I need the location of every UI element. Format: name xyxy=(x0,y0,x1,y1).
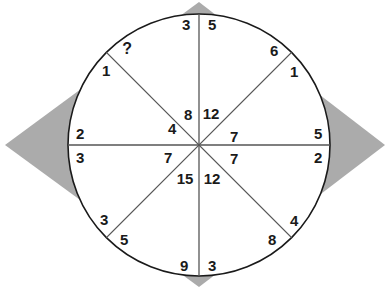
outer-lower-left-below: 5 xyxy=(120,232,128,247)
outer-lower-right-above: 4 xyxy=(290,213,298,228)
inner-sector-n-ne: 12 xyxy=(203,106,219,121)
inner-sector-e-se: 7 xyxy=(230,151,238,166)
outer-upper-left-above: ? xyxy=(122,41,132,57)
outer-upper-right-below: 1 xyxy=(290,64,298,79)
puzzle-canvas: 356152483953321? 12771215748 xyxy=(0,0,390,289)
inner-sector-sw-w: 7 xyxy=(164,150,172,165)
outer-lower-left-above: 3 xyxy=(100,212,108,227)
outer-right-above: 5 xyxy=(314,126,322,141)
inner-sector-nw-n: 8 xyxy=(184,107,192,122)
outer-right-below: 2 xyxy=(314,150,322,165)
sector-spokes xyxy=(68,14,330,276)
inner-sector-se-s: 12 xyxy=(204,171,220,186)
outer-bottom-left: 9 xyxy=(180,258,188,273)
outer-upper-right-above: 6 xyxy=(270,43,278,58)
inner-sector-s-sw: 15 xyxy=(177,171,193,186)
puzzle-figure xyxy=(0,0,390,289)
outer-upper-left-below: 1 xyxy=(102,63,110,78)
outer-lower-right-below: 8 xyxy=(268,232,276,247)
inner-sector-w-nw: 4 xyxy=(168,121,176,136)
outer-left-above: 2 xyxy=(76,126,84,141)
outer-bottom-right: 3 xyxy=(208,258,216,273)
outer-top-left: 3 xyxy=(182,17,190,32)
inner-sector-ne-e: 7 xyxy=(230,129,238,144)
outer-top-right: 5 xyxy=(208,17,216,32)
outer-left-below: 3 xyxy=(76,150,84,165)
